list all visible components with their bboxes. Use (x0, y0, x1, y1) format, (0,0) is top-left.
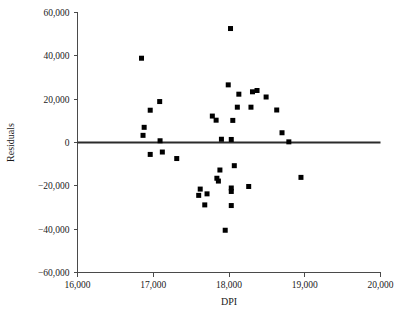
scatter-point (196, 193, 201, 198)
x-tick-label: 16,000 (64, 280, 90, 290)
scatter-point (158, 138, 163, 143)
scatter-points-group (139, 26, 303, 233)
scatter-point (217, 168, 222, 173)
x-tick-label: 17,000 (140, 280, 166, 290)
scatter-point (216, 179, 221, 184)
y-tick-label: 0 (65, 138, 70, 148)
scatter-point (148, 108, 153, 113)
plot-canvas: 60,00040,00020,0000−20,000−40,000−60,000… (0, 0, 399, 314)
scatter-point (298, 175, 303, 180)
scatter-point (219, 137, 224, 142)
scatter-point (141, 133, 146, 138)
x-tick-label: 20,000 (367, 280, 393, 290)
scatter-point (264, 95, 269, 100)
y-axis-title: Residuals (5, 123, 16, 162)
scatter-point (236, 92, 241, 97)
scatter-point (280, 130, 285, 135)
scatter-point (142, 125, 147, 130)
y-axis-tick-marks (74, 13, 78, 273)
scatter-point (230, 118, 235, 123)
x-tick-label: 19,000 (292, 280, 318, 290)
scatter-point (229, 137, 234, 142)
y-tick-label: 60,000 (43, 8, 69, 18)
scatter-point (235, 105, 240, 110)
y-axis-tick-labels: 60,00040,00020,0000−20,000−40,000−60,000 (38, 8, 70, 278)
scatter-point (157, 99, 162, 104)
y-tick-label: −60,000 (38, 268, 70, 278)
scatter-point (274, 108, 279, 113)
scatter-point (174, 156, 179, 161)
scatter-point (228, 26, 233, 31)
y-tick-label: 20,000 (43, 95, 69, 105)
scatter-point (250, 89, 255, 94)
scatter-point (214, 118, 219, 123)
x-axis-tick-labels: 16,00017,00018,00019,00020,000 (64, 280, 393, 290)
scatter-point (286, 139, 291, 144)
scatter-point (223, 228, 228, 233)
scatter-point (139, 56, 144, 61)
scatter-point (205, 191, 210, 196)
x-axis-title: DPI (221, 296, 237, 307)
x-axis-tick-marks (78, 273, 381, 277)
scatter-point (255, 88, 260, 93)
y-tick-label: −20,000 (38, 181, 70, 191)
scatter-point (226, 82, 231, 87)
scatter-point (232, 163, 237, 168)
scatter-point (229, 189, 234, 194)
scatter-point (202, 202, 207, 207)
y-tick-label: 40,000 (43, 51, 69, 61)
scatter-point (248, 105, 253, 110)
y-tick-label: −40,000 (38, 225, 70, 235)
scatter-point (246, 184, 251, 189)
scatter-plot-figure: 60,00040,00020,0000−20,000−40,000−60,000… (0, 0, 399, 314)
scatter-point (160, 150, 165, 155)
scatter-point (198, 187, 203, 192)
scatter-point (229, 203, 234, 208)
scatter-point (148, 152, 153, 157)
x-tick-label: 18,000 (216, 280, 242, 290)
